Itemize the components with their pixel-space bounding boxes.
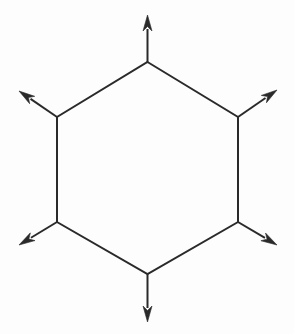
arrow-down-head: [143, 306, 152, 322]
arrow-lower-left-head: [19, 233, 35, 245]
arrow-upper-left-head: [19, 91, 35, 104]
arrow-lower-left-shaft: [31, 222, 57, 238]
arrow-down: [143, 274, 152, 322]
arrow-upper-right: [238, 90, 277, 117]
arrow-lower-right: [238, 222, 277, 245]
hexagon-fill: [57, 62, 238, 274]
arrow-upper-left-shaft: [31, 99, 57, 117]
arrow-upper-right-head: [261, 90, 277, 103]
arrow-upper-left: [19, 91, 57, 117]
hexagon-arrows-diagram: [0, 0, 294, 334]
arrow-upper-right-shaft: [238, 98, 265, 117]
arrow-up-head: [143, 15, 152, 31]
arrow-lower-right-shaft: [238, 222, 265, 238]
arrow-lower-right-head: [261, 233, 277, 245]
arrow-lower-left: [19, 222, 57, 245]
figure-canvas: [0, 0, 294, 334]
arrow-up: [143, 15, 152, 62]
